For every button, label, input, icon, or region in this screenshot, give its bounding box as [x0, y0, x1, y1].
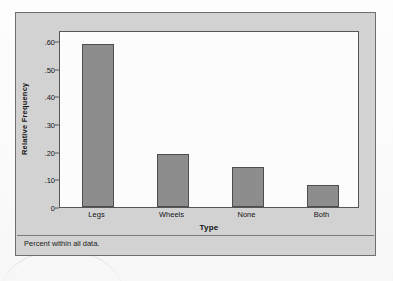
bar-legs	[82, 44, 114, 207]
x-axis-tick-label: Wheels	[159, 210, 184, 219]
bars-container	[60, 32, 358, 207]
footnote-divider	[17, 235, 374, 236]
y-axis-ticks: 0.10.20.30.40.50.60	[32, 31, 59, 208]
bar-both	[307, 185, 339, 207]
chart-footnote: Percent within all data.	[24, 239, 99, 248]
y-axis-tick-label: .20	[45, 148, 55, 157]
bar-wheels	[157, 154, 189, 207]
y-axis-tick-label: .30	[45, 121, 55, 130]
y-axis-tick-label: .10	[45, 176, 55, 185]
x-axis-title: Type	[59, 223, 359, 232]
y-axis-title: Relative Frequency	[18, 49, 32, 189]
chart-figure: Relative Frequency 0.10.20.30.40.50.60 L…	[15, 12, 376, 256]
x-axis-tick-label: None	[238, 210, 256, 219]
x-axis-tick-labels: LegsWheelsNoneBoth	[59, 210, 359, 224]
x-axis-tick-label: Legs	[88, 210, 104, 219]
plot-area	[59, 31, 359, 208]
bar-none	[232, 167, 264, 207]
y-axis-tick-label: .40	[45, 93, 55, 102]
y-axis-tick-label: .60	[45, 38, 55, 47]
x-axis-tick-label: Both	[314, 210, 329, 219]
y-axis-tick-label: .50	[45, 65, 55, 74]
